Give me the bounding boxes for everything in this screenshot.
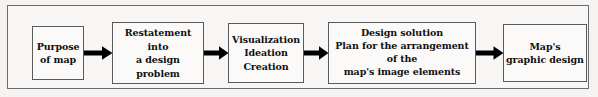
flow-node-label: Visualization Ideation Creation [229,33,303,74]
right-arrow-icon [204,45,229,61]
flow-node-design-solution: Design solution Plan for the arrangement… [328,22,476,84]
flow-node-label: Restatement into a design problem [113,26,203,80]
flow-node-label: Map's graphic design [504,40,586,66]
right-arrow-icon [84,45,113,61]
right-arrow-icon [304,45,329,61]
flowchart-canvas: Purpose of map Restatement into a design… [0,0,598,97]
flow-node-visualization: Visualization Ideation Creation [228,23,304,83]
flow-node-label: Design solution Plan for the arrangement… [329,27,475,78]
outer-frame: Purpose of map Restatement into a design… [7,5,589,89]
right-arrow-icon [476,45,504,61]
flow-node-purpose: Purpose of map [32,26,84,80]
flow-node-label: Purpose of map [33,40,83,66]
flow-node-graphic-design: Map's graphic design [503,24,587,82]
flow-node-restatement: Restatement into a design problem [112,22,204,84]
